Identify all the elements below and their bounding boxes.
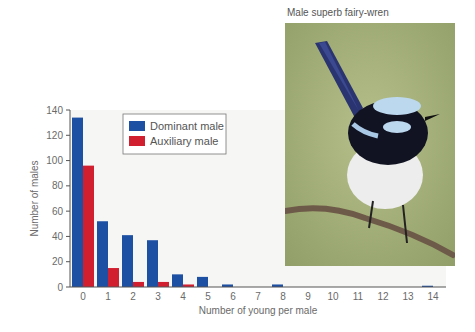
bar-auxiliary-3 [158, 282, 169, 287]
x-tick-label: 12 [377, 291, 389, 302]
x-tick-label: 7 [255, 291, 261, 302]
x-tick-label: 3 [155, 291, 161, 302]
bar-dominant-0 [72, 118, 83, 287]
x-axis-title: Number of young per male [199, 305, 318, 316]
y-tick-label: 120 [46, 130, 63, 141]
x-tick-label: 10 [327, 291, 339, 302]
y-tick-label: 60 [52, 206, 64, 217]
x-tick-label: 5 [205, 291, 211, 302]
bar-dominant-5 [197, 277, 208, 287]
bar-dominant-2 [122, 235, 133, 287]
bar-auxiliary-2 [133, 282, 144, 287]
x-tick-label: 8 [280, 291, 286, 302]
bar-auxiliary-1 [108, 268, 119, 287]
bar-dominant-3 [147, 240, 158, 287]
bar-dominant-1 [97, 221, 108, 287]
x-tick-label: 6 [230, 291, 236, 302]
legend: Dominant maleAuxiliary male [123, 114, 226, 154]
y-tick-label: 80 [52, 180, 64, 191]
x-tick-label: 0 [80, 291, 86, 302]
x-tick-label: 13 [402, 291, 414, 302]
y-axis-title: Number of males [29, 160, 40, 236]
x-tick-label: 14 [427, 291, 439, 302]
y-tick-label: 100 [46, 155, 63, 166]
x-tick-label: 9 [305, 291, 311, 302]
x-tick-label: 11 [353, 291, 364, 302]
bar-auxiliary-0 [83, 166, 94, 287]
bird-photo [285, 23, 455, 266]
bar-dominant-4 [172, 274, 183, 287]
x-tick-label: 1 [105, 291, 111, 302]
x-tick-label: 4 [180, 291, 186, 302]
y-tick-label: 140 [46, 105, 63, 116]
x-axis: 01234567891011121314 [70, 287, 446, 302]
y-axis: 020406080100120140 [46, 105, 70, 293]
y-tick-label: 40 [52, 231, 64, 242]
legend-swatch-dominant [129, 121, 145, 131]
y-tick-label: 20 [52, 256, 64, 267]
legend-label-auxiliary: Auxiliary male [150, 135, 218, 147]
x-tick-label: 2 [130, 291, 136, 302]
photo-caption: Male superb fairy-wren [287, 7, 389, 18]
y-tick-label: 0 [57, 282, 63, 293]
bird-ear-patch [383, 121, 411, 133]
bird-cap [373, 97, 421, 115]
legend-label-dominant: Dominant male [150, 120, 224, 132]
legend-swatch-auxiliary [129, 136, 145, 146]
